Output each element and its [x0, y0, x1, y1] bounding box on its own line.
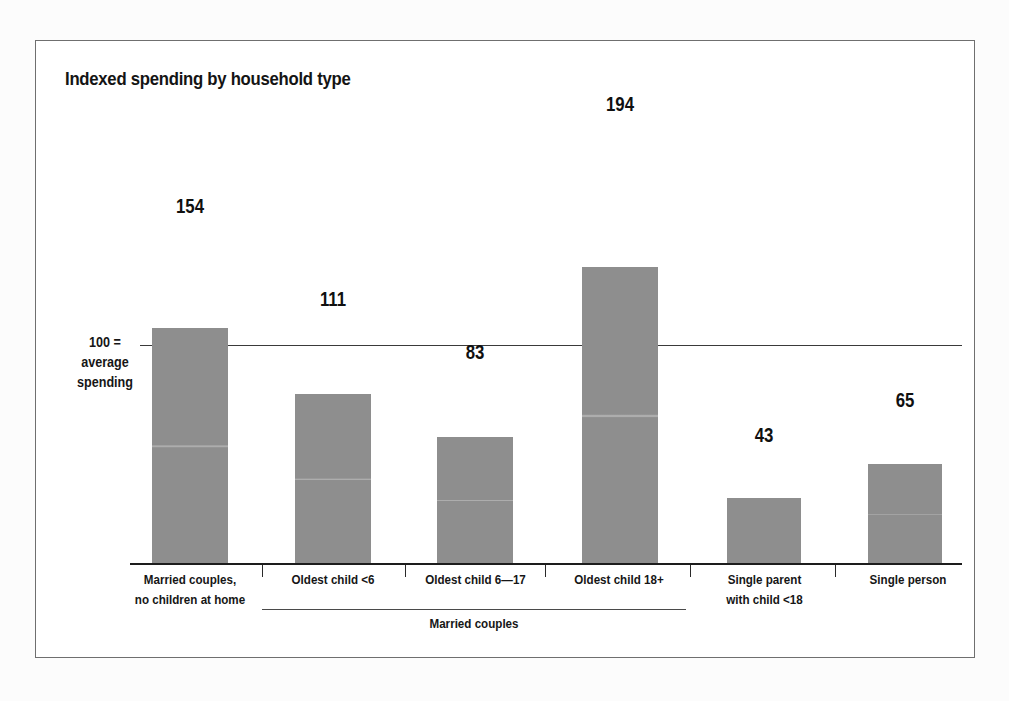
reference-line-label: 100 = average spending — [66, 333, 143, 393]
reference-line-label-line-1: 100 = — [66, 333, 143, 353]
bar-single-person[interactable] — [868, 464, 942, 564]
category-label-line: Oldest child <6 — [273, 570, 393, 590]
bar-oldest-child-under-6[interactable] — [295, 394, 371, 564]
bar-oldest-child-6-17[interactable] — [437, 437, 513, 564]
axis-tick — [545, 565, 546, 577]
value-label: 111 — [291, 288, 375, 311]
category-label-line: Single person — [848, 570, 968, 590]
bar-single-parent-with-child[interactable] — [727, 498, 801, 564]
value-label: 43 — [722, 424, 806, 447]
category-label-line: Single parent — [702, 570, 827, 590]
bar-oldest-child-18-plus[interactable] — [582, 267, 658, 564]
category-label-line: with child <18 — [702, 590, 827, 610]
reference-line-segment — [228, 345, 450, 346]
category-label-single-person: Single person — [848, 570, 968, 590]
category-label-line: no children at home — [121, 590, 259, 610]
reference-line-label-line-3: spending — [66, 373, 143, 393]
group-bracket-label: Married couples — [292, 616, 657, 631]
category-label-oldest-child-6-17: Oldest child 6—17 — [413, 570, 538, 590]
category-label-oldest-child-under-6: Oldest child <6 — [273, 570, 393, 590]
axis-tick — [835, 565, 836, 577]
axis-tick — [405, 565, 406, 577]
category-label-line: Oldest child 18+ — [558, 570, 680, 590]
axis-tick — [262, 565, 263, 577]
category-label-oldest-child-18-plus: Oldest child 18+ — [558, 570, 680, 590]
value-label: 154 — [148, 195, 232, 218]
category-label-line: Oldest child 6—17 — [413, 570, 538, 590]
value-label: 194 — [578, 93, 662, 116]
x-axis-line — [130, 563, 962, 565]
chart-page: Indexed spending by household type 100 =… — [0, 0, 1009, 701]
category-label-line: Married couples, — [121, 570, 259, 590]
reference-line-label-line-2: average — [66, 353, 143, 373]
bar-married-couples-no-children[interactable] — [152, 328, 228, 564]
axis-tick — [690, 565, 691, 577]
value-label: 83 — [433, 341, 517, 364]
plot-area: 100 = average spending 154 111 83 194 43… — [0, 0, 1009, 701]
category-label-married-couples-no-children: Married couples, no children at home — [121, 570, 259, 609]
category-label-single-parent: Single parent with child <18 — [702, 570, 827, 609]
value-label: 65 — [863, 389, 947, 412]
group-bracket-line — [262, 609, 686, 610]
